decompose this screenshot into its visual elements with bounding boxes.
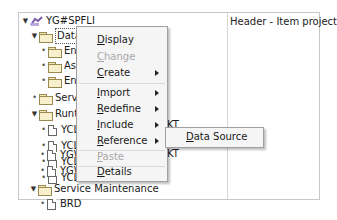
context-menu: Display Change Create Import Redefine In… — [76, 26, 168, 182]
menu-item-display[interactable]: Display — [77, 32, 167, 48]
menu-item-label: Change — [97, 49, 135, 65]
document-icon — [48, 125, 57, 136]
tree-node-label: Service Maintenance — [54, 182, 159, 196]
bullet-icon: • — [30, 91, 39, 105]
submenu-arrow-icon — [155, 106, 159, 112]
tree-node-label: BRD — [60, 197, 82, 211]
folder-icon — [48, 47, 61, 56]
bullet-icon: • — [39, 44, 48, 58]
menu-item-label: Redefine — [97, 101, 141, 117]
expand-toggle-icon[interactable]: ▼ — [29, 182, 38, 196]
bullet-icon: • — [39, 59, 48, 73]
folder-icon — [48, 77, 61, 86]
pane-divider[interactable] — [227, 13, 228, 199]
menu-item-include[interactable]: Include — [77, 117, 167, 133]
project-icon — [30, 16, 43, 27]
bullet-icon: • — [38, 148, 47, 162]
menu-item-label: Paste — [97, 149, 124, 165]
menu-item-label: Include — [97, 117, 133, 133]
expand-toggle-icon[interactable]: ▼ — [30, 29, 39, 43]
expand-toggle-icon[interactable]: ▼ — [21, 14, 30, 28]
tree-node-suffix-text: KT — [167, 147, 179, 161]
folder-open-icon — [38, 185, 51, 194]
bullet-icon: • — [39, 123, 48, 137]
tree-node-suffix: KT — [167, 147, 179, 161]
submenu-item-data-source[interactable]: Data Source — [186, 130, 247, 144]
menu-item-details[interactable]: Details — [77, 164, 167, 180]
folder-icon — [48, 62, 61, 71]
folder-icon — [39, 94, 52, 103]
submenu-arrow-icon — [155, 90, 159, 96]
bullet-icon: • — [38, 197, 47, 211]
menu-item-change: Change — [77, 49, 167, 65]
tree-node-service-maintenance[interactable]: ▼ Service Maintenance — [29, 182, 159, 196]
menu-separator — [79, 83, 165, 84]
menu-item-import[interactable]: Import — [77, 85, 167, 101]
document-icon — [47, 199, 56, 210]
menu-item-redefine[interactable]: Redefine — [77, 101, 167, 117]
menu-item-label: Details — [97, 164, 132, 180]
menu-item-create[interactable]: Create — [77, 65, 167, 81]
tree-node[interactable]: • YCL — [39, 123, 79, 137]
folder-open-icon — [39, 32, 52, 41]
document-icon — [47, 150, 56, 161]
submenu-arrow-icon — [155, 70, 159, 76]
bullet-icon: • — [39, 74, 48, 88]
menu-item-label: Create — [97, 65, 130, 81]
submenu-arrow-icon — [155, 138, 159, 144]
detail-pane-header: Header - Item project — [230, 16, 337, 27]
menu-item-label: Display — [97, 32, 134, 48]
document-icon — [47, 166, 56, 177]
menu-item-label: Import — [97, 85, 130, 101]
expand-toggle-icon[interactable]: ▼ — [30, 107, 39, 121]
reference-submenu: Data Source — [165, 127, 264, 148]
menu-item-label: Reference — [97, 133, 147, 149]
submenu-arrow-icon — [155, 122, 159, 128]
bullet-icon: • — [38, 164, 47, 178]
menu-item-reference[interactable]: Reference — [77, 133, 167, 149]
folder-open-icon — [39, 110, 52, 119]
tree-node[interactable]: • BRD — [38, 197, 82, 211]
menu-item-paste: Paste — [77, 149, 167, 165]
